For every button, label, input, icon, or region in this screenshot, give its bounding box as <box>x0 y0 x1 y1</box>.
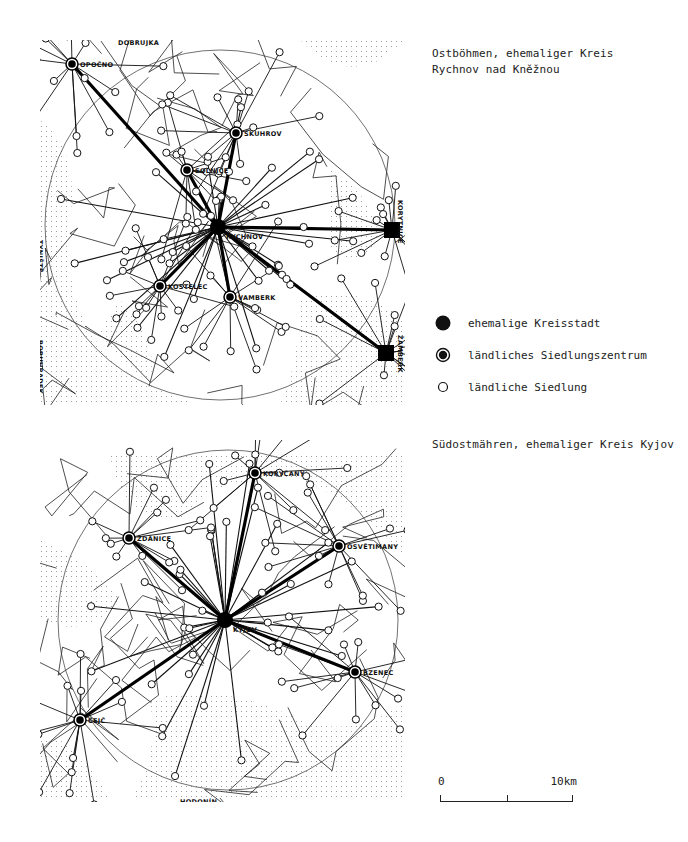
scale-bar: 0 10km <box>438 775 573 805</box>
map-caption-rychnov: Ostböhmen, ehemaliger Kreis Rychnov nad … <box>432 46 614 78</box>
svg-text:OSVĚTIMANY: OSVĚTIMANY <box>347 542 398 551</box>
legend-label: ländliche Siedlung <box>468 381 587 394</box>
svg-text:BZENEC: BZENEC <box>363 669 394 677</box>
legend-item-rural-center: ländliches Siedlungszentrum <box>432 339 647 371</box>
legend-item-district-town: ehemalige Kreisstadt <box>432 307 647 339</box>
filled-dot-icon <box>432 314 454 332</box>
scale-end-label: 10km <box>551 775 578 788</box>
scale-midtick <box>507 795 508 801</box>
map-caption-kyjov: Südostmähren, ehemaliger Kreis Kyjov <box>432 437 674 453</box>
map-legend: ehemalige Kreisstadt ländliches Siedlung… <box>432 307 647 403</box>
svg-text:ČEJČ: ČEJČ <box>88 716 106 725</box>
scale-line <box>440 795 573 802</box>
map-kyjov: KORYČANYŽDÁNICEOSVĚTIMANYBZENECČEJČKYJOV… <box>0 0 420 842</box>
svg-text:BUČOVICE: BUČOVICE <box>80 433 119 442</box>
caption-line-2: Rychnov nad Kněžnou <box>432 62 614 78</box>
caption-line: Südostmähren, ehemaliger Kreis Kyjov <box>432 437 674 453</box>
caption-line-1: Ostböhmen, ehemaliger Kreis <box>432 46 614 62</box>
svg-text:KORYČANY: KORYČANY <box>263 469 305 478</box>
map-kyjov-canvas: KORYČANYŽDÁNICEOSVĚTIMANYBZENECČEJČKYJOV… <box>0 0 420 842</box>
legend-label: ländliches Siedlungszentrum <box>468 349 647 362</box>
svg-text:HODONÍN: HODONÍN <box>180 797 217 806</box>
ringed-dot-icon <box>432 346 454 364</box>
legend-label: ehemalige Kreisstadt <box>468 317 600 330</box>
svg-text:ŽDÁNICE: ŽDÁNICE <box>137 534 171 543</box>
scale-start-label: 0 <box>438 775 445 788</box>
svg-text:KYJOV: KYJOV <box>233 626 257 634</box>
legend-item-rural-settlement: ländliche Siedlung <box>432 371 647 403</box>
open-circle-icon <box>432 378 454 396</box>
